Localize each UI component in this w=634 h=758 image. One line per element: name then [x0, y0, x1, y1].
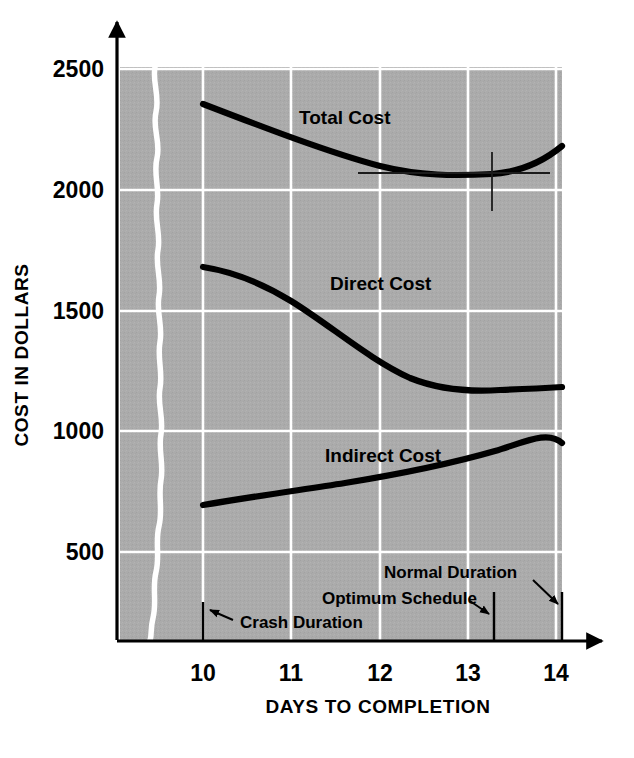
marker-label-optimum-schedule: Optimum Schedule [322, 589, 477, 608]
xtick-label-14: 14 [543, 660, 569, 686]
series-label-total-cost: Total Cost [299, 107, 391, 128]
cost-vs-duration-chart: Total Cost Direct Cost Indirect Cost Cra… [0, 0, 634, 758]
series-label-direct-cost: Direct Cost [330, 273, 432, 294]
xtick-label-12: 12 [367, 660, 393, 686]
marker-label-crash-duration: Crash Duration [240, 613, 363, 632]
x-axis-title: DAYS TO COMPLETION [265, 696, 490, 717]
ytick-label-2500: 2500 [53, 56, 104, 82]
series-label-indirect-cost: Indirect Cost [325, 445, 442, 466]
xtick-label-13: 13 [455, 660, 481, 686]
marker-label-normal-duration: Normal Duration [384, 563, 517, 582]
xtick-label-10: 10 [190, 660, 216, 686]
y-axis-title: COST IN DOLLARS [11, 263, 32, 446]
chart-figure: Total Cost Direct Cost Indirect Cost Cra… [0, 0, 634, 758]
ytick-label-1500: 1500 [53, 298, 104, 324]
ytick-label-1000: 1000 [53, 418, 104, 444]
ytick-label-500: 500 [66, 539, 104, 565]
xtick-label-11: 11 [279, 660, 304, 686]
ytick-label-2000: 2000 [53, 177, 104, 203]
